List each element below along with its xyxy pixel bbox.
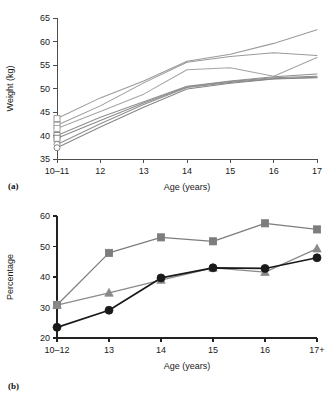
x-tick-label-a: 10–11 xyxy=(45,166,69,176)
x-tick-label-b: 16 xyxy=(260,345,270,355)
y-axis-title-a: Weight (kg) xyxy=(5,66,15,112)
percentage-by-age-line-chart: 203040506010–121314151617+Age (years)Per… xyxy=(0,198,332,378)
series-start-square-marker-a xyxy=(54,125,60,131)
y-tick-label-a: 50 xyxy=(40,84,50,94)
y-axis-title-b: Percentage xyxy=(5,254,15,300)
x-tick-label-b: 15 xyxy=(208,345,218,355)
panel-label-b: (b) xyxy=(8,381,19,391)
x-tick-label-b: 14 xyxy=(156,345,166,355)
y-tick-label-b: 20 xyxy=(40,333,50,343)
series-start-square-marker-a xyxy=(54,135,60,141)
panel-label-a: (a) xyxy=(8,181,19,191)
y-tick-label-a: 65 xyxy=(40,13,50,23)
x-tick-label-a: 12 xyxy=(95,166,105,176)
data-point-circle-marker xyxy=(105,306,113,314)
data-point-square-marker xyxy=(313,226,320,233)
x-axis-title-b: Age (years) xyxy=(164,361,211,371)
x-tick-label-a: 14 xyxy=(182,166,192,176)
y-tick-label-a: 55 xyxy=(40,60,50,70)
data-point-circle-marker xyxy=(209,264,217,272)
y-tick-label-b: 40 xyxy=(40,272,50,282)
series-line-a xyxy=(57,77,317,144)
y-tick-label-b: 50 xyxy=(40,242,50,252)
data-point-square-marker xyxy=(261,220,268,227)
series-line-a xyxy=(57,57,317,128)
x-tick-label-a: 13 xyxy=(139,166,149,176)
x-tick-label-a: 17 xyxy=(312,166,322,176)
series-line-b xyxy=(57,258,317,328)
series-start-square-marker-a xyxy=(54,116,60,122)
series-line-b xyxy=(57,249,317,305)
y-tick-label-b: 60 xyxy=(40,211,50,221)
x-tick-label-a: 16 xyxy=(269,166,279,176)
data-point-square-marker xyxy=(157,234,164,241)
y-tick-label-a: 35 xyxy=(40,154,50,164)
x-tick-label-a: 15 xyxy=(225,166,235,176)
y-tick-label-b: 30 xyxy=(40,303,50,313)
x-tick-label-b: 13 xyxy=(104,345,114,355)
data-point-square-marker xyxy=(105,249,112,256)
y-tick-label-a: 40 xyxy=(40,131,50,141)
data-point-circle-marker xyxy=(261,264,269,272)
axis-lines-b xyxy=(57,216,317,338)
weight-by-age-line-chart: 3540455055606510–11121314151617Age (year… xyxy=(0,0,332,200)
data-point-circle-marker xyxy=(53,323,61,331)
data-point-square-marker xyxy=(209,238,216,245)
series-start-circle-marker-a xyxy=(54,145,60,151)
x-tick-label-b: 10–12 xyxy=(44,345,69,355)
chart-panel-b: 203040506010–121314151617+Age (years)Per… xyxy=(0,198,332,403)
chart-panel-a: 3540455055606510–11121314151617Age (year… xyxy=(0,0,332,200)
y-tick-label-a: 45 xyxy=(40,107,50,117)
data-point-circle-marker xyxy=(313,254,321,262)
data-point-circle-marker xyxy=(157,274,165,282)
x-tick-label-b: 17+ xyxy=(309,345,324,355)
y-tick-label-a: 60 xyxy=(40,37,50,47)
data-point-triangle-marker xyxy=(313,244,321,252)
series-line-b xyxy=(57,223,317,305)
x-axis-title-a: Age (years) xyxy=(164,182,211,192)
